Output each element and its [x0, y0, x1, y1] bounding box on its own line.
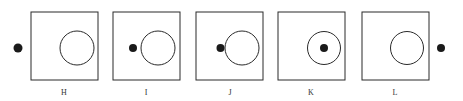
square-frame: [278, 12, 345, 80]
dot: [437, 44, 445, 52]
square-frame: [362, 12, 429, 80]
square-frame: [196, 12, 263, 80]
panel-k: [278, 12, 345, 80]
panel-label-i: I: [136, 88, 156, 97]
dot: [14, 44, 23, 53]
square-frame: [31, 12, 98, 80]
square-frame: [113, 12, 180, 80]
panel-label-h: H: [54, 88, 74, 97]
panel-j: [196, 12, 263, 80]
panel-label-l: L: [385, 88, 405, 97]
panel-label-j: J: [220, 88, 240, 97]
dot: [129, 44, 137, 52]
panel-l: [362, 12, 445, 80]
panel-i: [113, 12, 180, 80]
circle: [391, 32, 424, 65]
panel-h: [14, 12, 99, 80]
dot: [217, 44, 225, 52]
sequence-diagram: [0, 0, 463, 101]
dot: [320, 44, 328, 52]
panel-label-k: K: [301, 88, 321, 97]
circle: [225, 31, 259, 65]
circle: [141, 31, 175, 65]
circle: [60, 31, 94, 65]
